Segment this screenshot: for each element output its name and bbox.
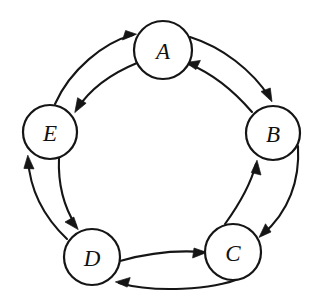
node-A-label: A — [154, 39, 171, 64]
node-B-label: B — [266, 122, 280, 147]
node-E[interactable]: E — [23, 105, 77, 159]
edge-E-to-D-arrowhead — [65, 217, 78, 230]
edge-D-to-E-arrowhead — [24, 155, 34, 169]
edge-C-to-D-path — [119, 278, 241, 289]
edge-D-to-C-path — [120, 251, 203, 261]
edge-C-to-D — [115, 278, 241, 290]
edge-B-to-A-path — [189, 64, 252, 112]
node-C[interactable]: C — [205, 224, 261, 280]
edge-E-to-D — [59, 158, 78, 230]
edge-C-to-D-arrowhead — [115, 278, 130, 288]
node-D[interactable]: D — [64, 229, 120, 285]
edge-C-to-B-path — [225, 164, 256, 224]
edge-D-to-C — [120, 248, 207, 261]
graph-canvas: A B C D E — [0, 0, 327, 299]
node-layer: A B C D E — [23, 21, 300, 285]
node-C-label: C — [225, 241, 241, 266]
edge-D-to-E-path — [28, 159, 67, 239]
cycle-graph-diagram: A B C D E — [0, 0, 327, 299]
edge-A-to-E — [75, 63, 137, 113]
edge-E-to-D-path — [59, 158, 76, 226]
edge-B-to-A — [186, 60, 253, 112]
edge-A-to-E-path — [77, 63, 137, 109]
edge-E-to-A-arrowhead — [123, 31, 137, 41]
edge-D-to-E — [24, 155, 67, 239]
edge-A-to-B-arrowhead — [261, 88, 272, 102]
node-E-label: E — [42, 121, 57, 146]
edge-E-to-A — [55, 31, 137, 105]
node-B[interactable]: B — [246, 106, 300, 160]
node-A[interactable]: A — [134, 21, 192, 79]
edge-C-to-B-arrowhead — [251, 160, 261, 175]
edge-C-to-B — [225, 160, 261, 224]
edge-B-to-C-arrowhead — [259, 224, 271, 238]
node-D-label: D — [83, 246, 101, 271]
